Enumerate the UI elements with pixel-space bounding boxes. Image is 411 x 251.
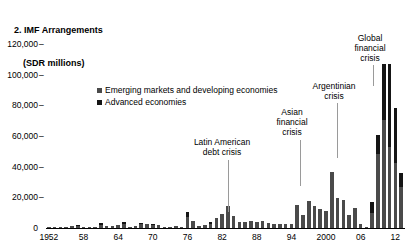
bar-1999 (318, 44, 322, 228)
bar-1953 (53, 44, 57, 228)
bar-1991 (272, 44, 276, 228)
bar-segment-advanced (370, 202, 374, 214)
annotation-leader-latin-american-debt-crisis (228, 160, 229, 212)
bar-1964 (116, 44, 120, 228)
x-axis-tick-label: 88 (252, 232, 261, 242)
x-axis-tick-label: 06 (356, 232, 365, 242)
bar-segment-emerging (82, 227, 86, 228)
bar-segment-emerging (180, 227, 184, 228)
bar-1954 (59, 44, 63, 228)
bar-segment-emerging (174, 226, 178, 228)
bar-segment-emerging (238, 222, 242, 228)
bar-1998 (313, 44, 317, 228)
annotation-argentinian-crisis: Argentinian crisis (312, 81, 355, 101)
bar-1958 (82, 44, 86, 228)
bar-1962 (105, 44, 109, 228)
x-axis-tick-label: 70 (148, 232, 157, 242)
bar-segment-emerging (336, 198, 340, 228)
bar-2007 (365, 44, 369, 228)
bar-segment-emerging (157, 225, 161, 228)
bar-1985 (238, 44, 242, 228)
bar-2004 (347, 44, 351, 228)
bar-2011 (388, 44, 392, 228)
bar-1971 (157, 44, 161, 228)
annotation-asian-financial-crisis: Asian financial crisis (276, 107, 307, 137)
bar-1956 (70, 44, 74, 228)
bar-2005 (353, 44, 357, 228)
plot-area (46, 44, 404, 228)
bar-segment-emerging (168, 227, 172, 228)
bar-1963 (111, 44, 115, 228)
x-axis-tick-label: 2000 (317, 232, 336, 242)
bar-segment-advanced (122, 222, 126, 224)
bar-segment-emerging (88, 227, 92, 228)
bar-segment-emerging (191, 221, 195, 228)
y-axis-tick-mark: – (39, 162, 44, 172)
x-axis-tick-label: 1952 (39, 232, 58, 242)
bar-1973 (168, 44, 172, 228)
x-axis-tick-label: 64 (113, 232, 122, 242)
y-axis-tick-label: 60,000 (12, 131, 38, 141)
bar-1968 (139, 44, 143, 228)
bar-segment-advanced (388, 64, 392, 147)
bar-2003 (342, 44, 346, 228)
bar-1959 (88, 44, 92, 228)
y-axis-tick-label: 120,000 (7, 39, 38, 49)
bar-segment-emerging (342, 200, 346, 228)
bar-segment-emerging (394, 163, 398, 228)
bar-segment-emerging (249, 221, 253, 228)
y-axis-tick-label: 40,000 (12, 162, 38, 172)
bar-segment-emerging (163, 227, 167, 228)
bar-segment-emerging (128, 227, 132, 228)
x-axis-tick-label: 82 (217, 232, 226, 242)
legend-swatch-emerging (97, 88, 102, 93)
bar-segment-emerging (53, 227, 57, 228)
legend-label-emerging: Emerging markets and developing economie… (105, 85, 277, 97)
y-axis-tick-label: 0 (33, 223, 38, 233)
annotation-leader-argentinian-crisis (337, 103, 338, 158)
bar-1952 (47, 44, 51, 228)
bar-segment-emerging (47, 227, 51, 228)
bar-1984 (232, 44, 236, 228)
x-axis-line (46, 228, 405, 229)
bar-segment-emerging (64, 227, 68, 228)
bar-1967 (134, 44, 138, 228)
y-axis-tick-label: 80,000 (12, 100, 38, 110)
bar-segment-emerging (267, 223, 271, 228)
bar-segment-emerging (145, 224, 149, 228)
y-axis-tick-label: 100,000 (7, 70, 38, 80)
bar-segment-emerging (382, 120, 386, 228)
bar-1972 (163, 44, 167, 228)
y-axis-tick-mark: – (39, 39, 44, 49)
bar-1970 (151, 44, 155, 228)
bar-1982 (220, 44, 224, 228)
bar-segment-advanced (209, 222, 213, 224)
bar-segment-emerging (122, 224, 126, 228)
bar-segment-emerging (151, 225, 155, 228)
bar-1988 (255, 44, 259, 228)
annotation-latin-american-debt-crisis: Latin American debt crisis (194, 137, 250, 157)
bar-segment-emerging (313, 206, 317, 228)
legend-item-advanced: Advanced economies (97, 97, 277, 109)
bar-2010 (382, 44, 386, 228)
bar-segment-emerging (301, 215, 305, 228)
bar-segment-emerging (255, 222, 259, 228)
bar-segment-emerging (197, 226, 201, 228)
bar-1965 (122, 44, 126, 228)
y-axis-tick-mark: – (39, 131, 44, 141)
y-axis-tick-label: 20,000 (12, 192, 38, 202)
bar-segment-emerging (99, 225, 103, 228)
bar-segment-advanced (376, 135, 380, 154)
bar-segment-advanced (394, 108, 398, 162)
legend-label-advanced: Advanced economies (105, 97, 186, 109)
bar-segment-emerging (59, 227, 63, 228)
bar-1979 (203, 44, 207, 228)
y-axis-tick-mark: – (39, 192, 44, 202)
bar-2006 (359, 44, 363, 228)
bar-2012 (394, 44, 398, 228)
bar-1975 (180, 44, 184, 228)
bar-segment-emerging (186, 217, 190, 228)
bar-segment-emerging (399, 187, 403, 228)
bar-segment-emerging (116, 225, 120, 228)
bar-segment-advanced (99, 223, 103, 225)
